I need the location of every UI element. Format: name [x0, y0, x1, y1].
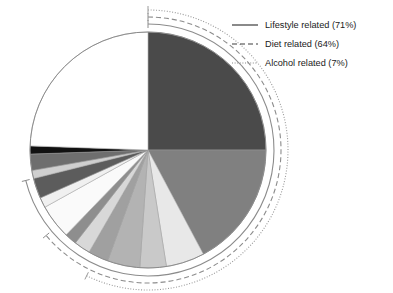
legend-label-lifestyle: Lifestyle related (71%): [265, 20, 356, 30]
pie-chart-figure: Lifestyle related (71%) Diet related (64…: [0, 0, 393, 293]
legend-label-alcohol: Alcohol related (7%): [265, 58, 348, 68]
legend-label-diet: Diet related (64%): [265, 39, 339, 49]
pie-slices-group: [30, 32, 266, 268]
